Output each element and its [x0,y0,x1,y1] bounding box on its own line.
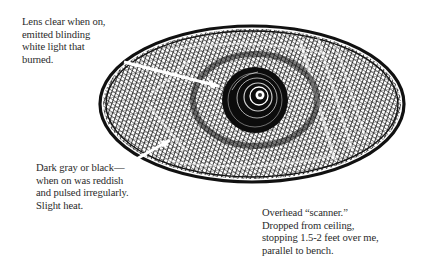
caption-line: parallel to bench. [262,245,379,258]
caption-line: Dark gray or black— [36,162,129,175]
caption-line: stopping 1.5-2 feet over me, [262,232,379,245]
caption-lens: Lens clear when on, emitted blinding whi… [22,16,105,66]
caption-line: when on was reddish [36,175,129,188]
caption-body: Dark gray or black— when on was reddish … [36,162,129,212]
caption-line: Dropped from ceiling, [262,220,379,233]
caption-line: Overhead “scanner.” [262,207,379,220]
caption-line: Lens clear when on, [22,16,105,29]
caption-line: emitted blinding [22,29,105,42]
caption-line: white light that [22,41,105,54]
scanner-lens [222,67,288,133]
caption-line: and pulsed irregularly. [36,187,129,200]
caption-line: Slight heat. [36,200,129,213]
caption-overall: Overhead “scanner.” Dropped from ceiling… [262,207,379,257]
caption-line: burned. [22,54,105,67]
